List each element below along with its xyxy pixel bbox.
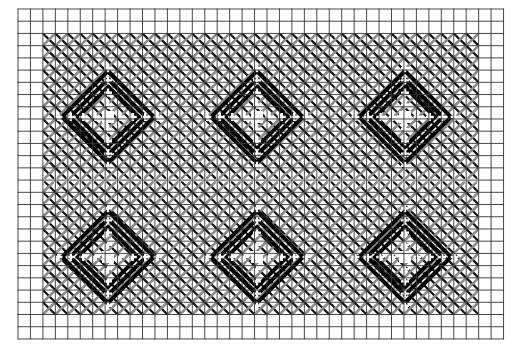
- stitch-pattern-chart: [0, 0, 517, 354]
